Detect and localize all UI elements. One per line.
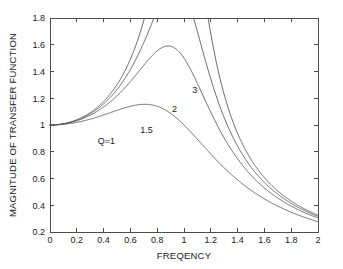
transfer-function-chart: 00.20.40.60.811.21.41.61.82 0.20.40.60.8… (0, 0, 343, 269)
x-tick-label: 0.2 (71, 235, 84, 245)
x-tick-label: 1.8 (285, 235, 298, 245)
curve-label-1: Q=1 (98, 136, 115, 146)
y-tick-label: 1 (40, 120, 45, 130)
x-tick-label: 0.6 (124, 235, 137, 245)
x-tick-label: 1.2 (205, 235, 218, 245)
y-tick-label: 1.4 (32, 67, 45, 77)
x-axis-title: FREQENCY (157, 250, 212, 261)
x-tick-label: 1 (181, 235, 186, 245)
x-tick-label: 1.6 (258, 235, 271, 245)
y-axis-title: MAGNITUDE OF TRANSFER FUNCTION (7, 33, 18, 217)
y-tick-label: 0.4 (32, 201, 45, 211)
x-tick-label: 2 (315, 235, 320, 245)
y-tick-label: 0.2 (32, 227, 45, 237)
y-tick-label: 1.8 (32, 13, 45, 23)
y-tick-label: 1.6 (32, 40, 45, 50)
x-tick-label: 1.4 (231, 235, 244, 245)
curve-label-2: 2 (172, 104, 177, 114)
curve-label-1-5: 1.5 (140, 125, 153, 135)
y-tick-label: 0.8 (32, 147, 45, 157)
y-tick-label: 0.6 (32, 174, 45, 184)
x-tick-label: 0.4 (97, 235, 110, 245)
x-tick-label: 0.8 (151, 235, 164, 245)
y-tick-label: 1.2 (32, 94, 45, 104)
x-tick-label: 0 (47, 235, 52, 245)
curve-label-3: 3 (192, 85, 197, 95)
